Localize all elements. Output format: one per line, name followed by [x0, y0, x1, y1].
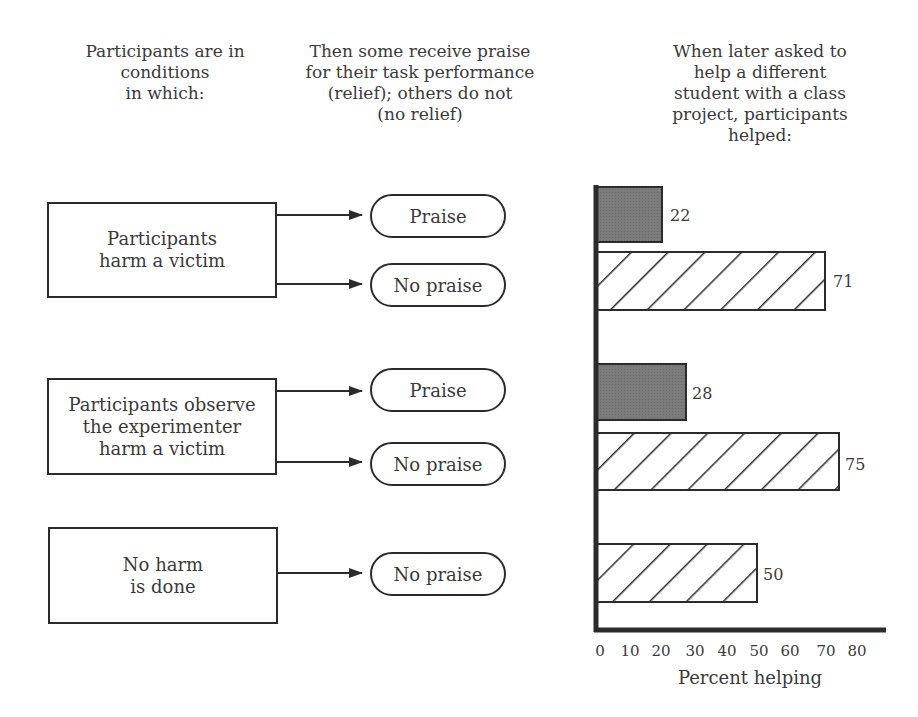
x-tick-label: 80	[847, 642, 866, 660]
bar-harm-no-praise	[596, 252, 825, 310]
bar-no-harm-no-praise	[596, 544, 757, 602]
x-tick-label: 10	[620, 642, 639, 660]
value-label: 71	[833, 272, 853, 291]
value-label: 50	[763, 565, 783, 584]
bar-observe-praise	[596, 364, 686, 420]
value-label: 22	[670, 206, 690, 225]
x-tick-label: 30	[685, 642, 704, 660]
diagram-graphics	[0, 0, 918, 717]
value-label: 28	[692, 384, 712, 403]
bar-observe-no-praise	[596, 433, 839, 490]
bar-harm-praise	[596, 187, 662, 242]
x-tick-label: 50	[749, 642, 768, 660]
x-tick-label: 40	[717, 642, 736, 660]
x-tick-label: 0	[595, 642, 605, 660]
x-tick-label: 70	[816, 642, 835, 660]
arrow-icon	[277, 215, 362, 573]
bars	[596, 187, 839, 602]
x-tick-label: 60	[780, 642, 799, 660]
x-tick-label: 20	[651, 642, 670, 660]
x-axis-label: Percent helping	[670, 667, 830, 688]
value-label: 75	[845, 455, 865, 474]
